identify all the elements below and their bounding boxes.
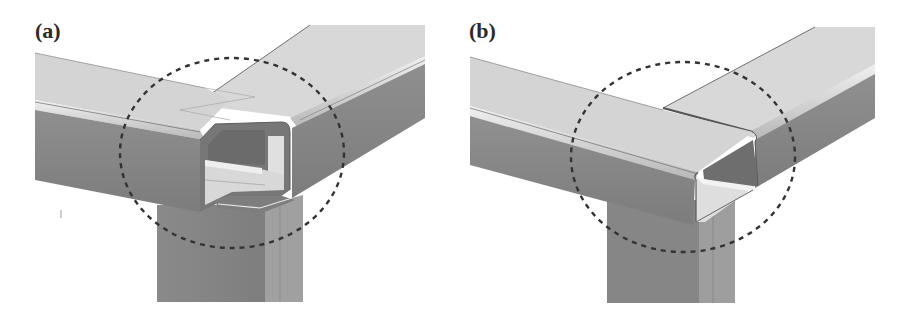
figure-panel-a: (a) (0, 0, 453, 314)
joint-cutout-a (200, 122, 295, 213)
frame-joint-illustration-b (453, 0, 906, 314)
figure-panel-b: (b) (453, 0, 906, 314)
frame-joint-illustration-a (0, 0, 453, 314)
